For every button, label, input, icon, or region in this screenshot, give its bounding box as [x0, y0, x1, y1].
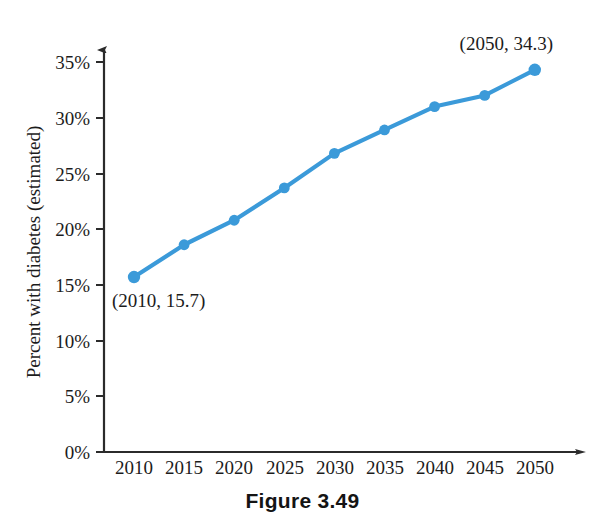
x-tick-label-2045: 2045 [466, 457, 504, 478]
y-tick-label-10: 10% [55, 331, 90, 352]
data-point-2015 [179, 239, 190, 250]
data-point-2050 [529, 64, 541, 76]
figure-container: 35% 30% 25% 20% 15% 10% 5% 0% 2010 2015 … [0, 0, 605, 519]
y-tick-label-20: 20% [55, 219, 90, 240]
line-chart: 35% 30% 25% 20% 15% 10% 5% 0% 2010 2015 … [0, 0, 605, 519]
x-tick-label-2035: 2035 [366, 457, 404, 478]
y-axis-title: Percent with diabetes (estimated) [23, 126, 45, 379]
y-tick-label-25: 25% [55, 164, 90, 185]
x-tick-label-2015: 2015 [165, 457, 203, 478]
y-tick-label-15: 15% [55, 275, 90, 296]
y-tick-label-35: 35% [55, 52, 90, 73]
data-point-2035 [379, 125, 390, 136]
annotation-first-point: (2010, 15.7) [112, 290, 205, 312]
y-tick-label-5: 5% [65, 386, 91, 407]
y-tick-label-0: 0% [65, 442, 91, 463]
x-tick-label-2050: 2050 [516, 457, 554, 478]
y-axis-ticks [96, 62, 104, 452]
figure-caption: Figure 3.49 [0, 489, 605, 513]
data-point-2045 [479, 90, 490, 101]
data-point-2025 [279, 183, 290, 194]
series-line-diabetes [134, 70, 535, 277]
data-point-2020 [229, 215, 240, 226]
x-tick-label-2010: 2010 [115, 457, 153, 478]
y-axis-tick-labels: 35% 30% 25% 20% 15% 10% 5% 0% [55, 52, 90, 463]
x-tick-label-2040: 2040 [416, 457, 454, 478]
y-tick-label-30: 30% [55, 108, 90, 129]
data-point-2030 [329, 148, 340, 159]
x-tick-label-2030: 2030 [316, 457, 354, 478]
data-point-2040 [429, 101, 440, 112]
annotation-last-point: (2050, 34.3) [460, 33, 553, 55]
x-tick-label-2025: 2025 [266, 457, 304, 478]
data-point-2010 [128, 271, 140, 283]
x-tick-label-2020: 2020 [215, 457, 253, 478]
x-axis-tick-labels: 2010 2015 2020 2025 2030 2035 2040 2045 … [115, 457, 554, 478]
